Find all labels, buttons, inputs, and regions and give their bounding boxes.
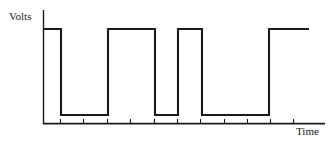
x-axis-label: Time [296,126,319,137]
waveform-figure: Volts Time [0,0,331,147]
y-axis-label: Volts [9,11,31,22]
axes-group [43,10,325,124]
waveform-signal-path [44,29,309,115]
waveform-plot-svg [0,0,331,147]
